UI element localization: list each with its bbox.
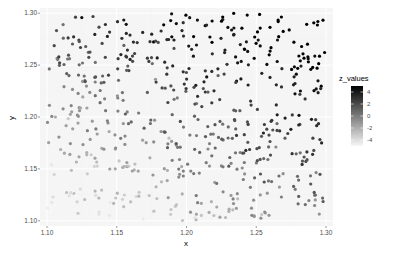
data-point (182, 70, 185, 73)
data-point (172, 38, 175, 41)
data-point (204, 135, 207, 138)
data-point (81, 143, 84, 146)
data-point (311, 153, 314, 156)
data-point (267, 179, 270, 182)
data-point (247, 83, 250, 86)
data-point (235, 168, 238, 171)
data-point (250, 104, 253, 107)
data-point (259, 193, 262, 196)
data-point (208, 35, 211, 38)
data-point (141, 139, 144, 142)
data-point (228, 208, 231, 211)
data-point (129, 200, 132, 203)
data-point (234, 127, 237, 130)
data-point (265, 128, 268, 131)
data-point (288, 28, 291, 31)
data-point (100, 81, 103, 84)
data-point (135, 195, 138, 198)
data-point (86, 172, 89, 175)
data-point (74, 194, 77, 197)
data-point (63, 152, 66, 155)
data-point (193, 148, 196, 151)
data-point (263, 180, 266, 183)
data-point (117, 79, 120, 82)
data-point (313, 191, 316, 194)
data-point (299, 59, 302, 62)
data-point (93, 165, 96, 168)
data-point (280, 67, 283, 70)
data-point (269, 50, 272, 53)
data-point (239, 77, 242, 80)
data-point (243, 48, 246, 51)
data-point (90, 153, 93, 156)
data-point (214, 146, 217, 149)
data-point (241, 166, 244, 169)
data-point (210, 200, 213, 203)
data-point (318, 138, 321, 141)
data-point (184, 14, 187, 17)
data-point (246, 141, 249, 144)
data-point (124, 165, 127, 168)
data-point (125, 32, 128, 35)
data-point (165, 73, 168, 76)
data-point (319, 87, 322, 90)
data-point (293, 75, 296, 78)
data-point (83, 198, 86, 201)
data-point (128, 34, 131, 37)
data-point (167, 137, 170, 140)
data-point (108, 167, 111, 170)
data-point (97, 213, 100, 216)
data-point (262, 157, 265, 160)
data-point (307, 57, 310, 60)
data-point (187, 67, 190, 70)
data-point (74, 16, 77, 19)
data-point (70, 169, 73, 172)
data-point (219, 37, 222, 40)
data-point (179, 146, 182, 149)
data-point (122, 44, 125, 47)
data-point (253, 35, 256, 38)
data-point (235, 134, 238, 137)
data-point (286, 132, 289, 135)
data-point (225, 63, 228, 66)
data-point (50, 163, 53, 166)
data-point (318, 213, 321, 216)
data-point (297, 114, 300, 117)
data-point (171, 64, 174, 67)
data-point (299, 89, 302, 92)
data-point (227, 165, 230, 168)
data-point (239, 43, 242, 46)
data-point (85, 106, 88, 109)
data-point (210, 101, 213, 104)
data-point (253, 57, 256, 60)
data-point (91, 15, 94, 18)
data-point (232, 33, 235, 36)
data-point (182, 170, 185, 173)
data-point (94, 210, 97, 213)
data-point (164, 87, 167, 90)
data-point (47, 141, 50, 144)
data-point (157, 41, 160, 44)
data-point (113, 133, 116, 136)
data-point (58, 64, 61, 67)
data-point (276, 113, 279, 116)
data-point (242, 178, 245, 181)
data-point (232, 197, 235, 200)
data-point (224, 216, 227, 219)
data-point (266, 158, 269, 161)
data-point (137, 170, 140, 173)
data-point (46, 121, 49, 124)
data-point (156, 56, 159, 59)
data-point (269, 46, 272, 49)
legend-break-label: 0 (367, 113, 371, 119)
data-point (217, 136, 220, 139)
data-point (94, 80, 97, 83)
data-point (123, 193, 126, 196)
data-point (280, 15, 283, 18)
data-point (323, 51, 326, 54)
data-point (182, 174, 185, 177)
data-point (257, 39, 260, 42)
x-tick-label: 1.30 (320, 229, 333, 236)
data-point (189, 211, 192, 214)
data-point (71, 42, 74, 45)
